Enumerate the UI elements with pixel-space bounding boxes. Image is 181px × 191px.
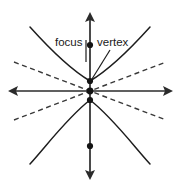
lower-vertex-dot	[87, 97, 93, 103]
lower-focus-dot	[87, 143, 93, 149]
vertex-label: vertex	[97, 36, 129, 48]
coordinate-axes	[8, 12, 173, 180]
hyperbola-diagram-svg: focus vertex	[0, 0, 181, 191]
center-dot	[87, 88, 94, 95]
hyperbola-figure: focus vertex	[0, 0, 181, 191]
upper-focus-dot	[87, 42, 93, 48]
upper-vertex-dot	[87, 78, 93, 84]
vertex-leader-line	[92, 50, 110, 79]
focus-label: focus	[55, 36, 83, 48]
